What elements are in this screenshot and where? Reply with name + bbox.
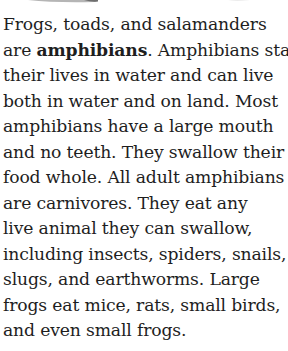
passage-line: food whole. All adult amphibians <box>3 165 288 191</box>
illustration-image <box>0 0 288 6</box>
passage-line: are carnivores. They eat any <box>3 191 288 217</box>
passage-line: both in water and on land. Most <box>3 89 288 115</box>
illustration-shape-right <box>228 0 250 1</box>
passage-line: slugs, and earthworms. Large <box>3 267 288 293</box>
illustration-bottom-edge <box>0 0 288 6</box>
passage-line: including insects, spiders, snails, <box>3 242 288 268</box>
reading-passage: Frogs, toads, and salamanders are amphib… <box>3 12 288 344</box>
passage-line: frogs eat mice, rats, small birds, <box>3 293 288 319</box>
passage-line: live animal they can swallow, <box>3 216 288 242</box>
passage-line: and even small frogs. <box>3 318 288 344</box>
passage-line: are amphibians. Amphibians start <box>3 38 288 64</box>
passage-line: Frogs, toads, and salamanders <box>3 12 288 38</box>
passage-line: their lives in water and can live <box>3 63 288 89</box>
passage-line: and no teeth. They swallow their <box>3 140 288 166</box>
keyword-amphibians: amphibians <box>37 40 148 60</box>
passage-line: amphibians have a large mouth <box>3 114 288 140</box>
